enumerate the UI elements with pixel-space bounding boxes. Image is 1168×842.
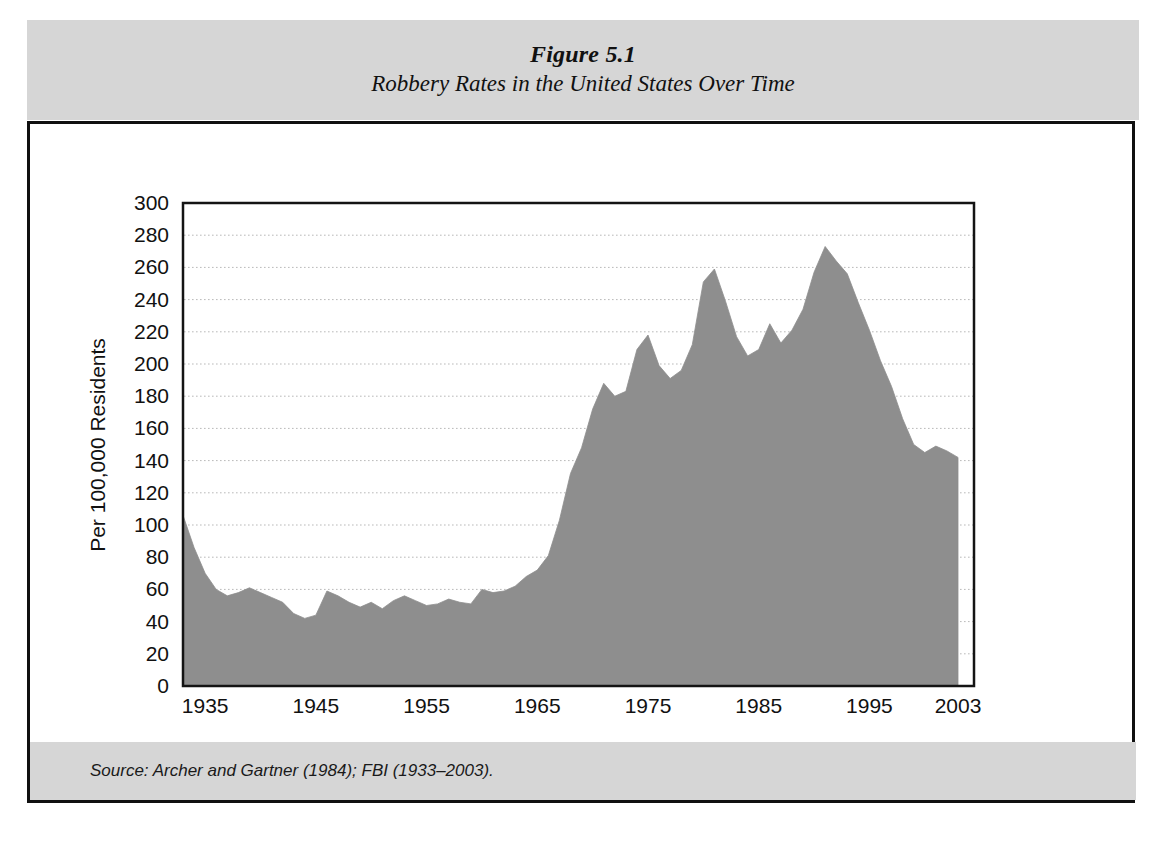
figure-title-band: Figure 5.1 Robbery Rates in the United S… (27, 20, 1139, 120)
source-note: Source: Archer and Gartner (1984); FBI (… (90, 761, 494, 781)
figure-number: Figure 5.1 (530, 41, 636, 69)
figure-container: Figure 5.1 Robbery Rates in the United S… (0, 0, 1168, 842)
figure-frame (27, 121, 1135, 803)
source-band: Source: Archer and Gartner (1984); FBI (… (30, 742, 1136, 800)
page-title: Robbery Rates in the United States Over … (371, 70, 795, 99)
